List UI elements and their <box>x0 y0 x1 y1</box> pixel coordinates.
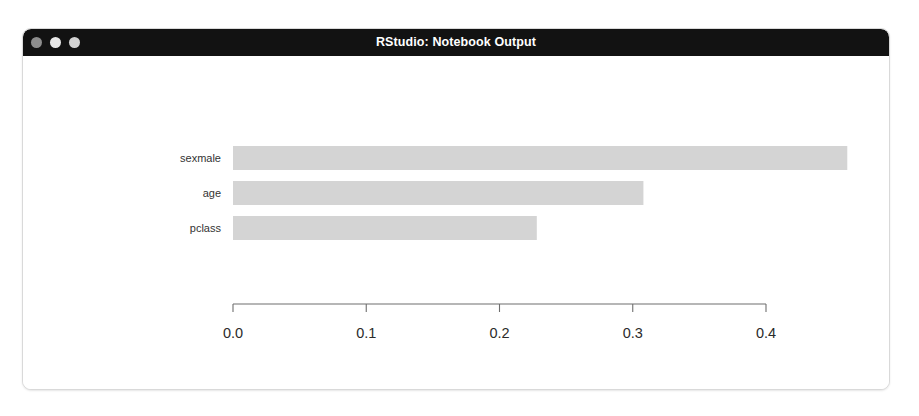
bar-age <box>233 181 643 205</box>
x-tick-label-0.2: 0.2 <box>489 325 509 341</box>
x-axis-tick-labels: 0.00.10.20.30.4 <box>223 325 776 341</box>
window-title-bar[interactable]: RStudio: Notebook Output <box>23 29 889 56</box>
bar-pclass <box>233 216 537 240</box>
x-tick-label-0.1: 0.1 <box>356 325 376 341</box>
window-title: RStudio: Notebook Output <box>23 29 889 56</box>
x-axis <box>233 304 766 312</box>
category-label-pclass: pclass <box>190 222 222 234</box>
x-tick-label-0.4: 0.4 <box>756 325 776 341</box>
rstudio-notebook-output-window: RStudio: Notebook Output sexmaleagepclas… <box>22 28 890 390</box>
x-tick-label-0.0: 0.0 <box>223 325 243 341</box>
horizontal-bar-chart: sexmaleagepclass 0.00.10.20.30.4 <box>23 56 889 390</box>
x-tick-label-0.3: 0.3 <box>623 325 643 341</box>
category-label-sexmale: sexmale <box>180 152 221 164</box>
notebook-plot-output: sexmaleagepclass 0.00.10.20.30.4 <box>23 56 889 390</box>
bar-sexmale <box>233 146 847 170</box>
bars-group <box>233 146 847 240</box>
category-labels-group: sexmaleagepclass <box>180 152 221 234</box>
category-label-age: age <box>203 187 221 199</box>
